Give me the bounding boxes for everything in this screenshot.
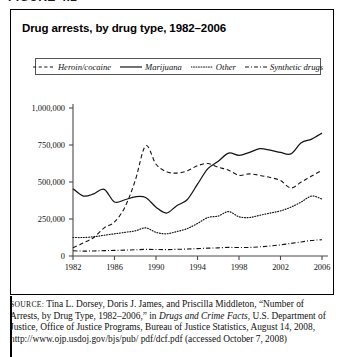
- y-tick-label: 1,000,000: [32, 104, 66, 113]
- series-line-marijuana: [73, 133, 322, 213]
- x-tick-label: 1990: [148, 263, 165, 272]
- chart-svg: 0250,000500,000750,0001,000,000 19821986…: [11, 10, 335, 296]
- x-tick-label: 1982: [65, 263, 82, 272]
- figure-container: Drug arrests, by drug type, 1982–2006 He…: [10, 9, 334, 295]
- x-tick-label: 1986: [106, 263, 123, 272]
- x-tick-label: 1998: [231, 263, 248, 272]
- x-axis-ticks: 1982198619901994199820022006: [65, 256, 331, 272]
- y-tick-label: 250,000: [38, 215, 65, 224]
- x-tick-label: 2006: [314, 263, 331, 272]
- y-tick-label: 500,000: [38, 178, 65, 187]
- y-tick-label: 0: [61, 252, 65, 261]
- source-line-2-italic: Drugs and Crime: [159, 311, 225, 321]
- x-tick-label: 1994: [189, 263, 207, 272]
- source-note: SOURCE: Tina L. Dorsey, Doris J. James, …: [10, 299, 332, 346]
- source-line-5: pdf/dcf.pdf (accessed October 7, 2008): [141, 334, 287, 344]
- y-tick-label: 750,000: [38, 141, 65, 150]
- source-line-3-italic: Facts: [227, 311, 248, 321]
- source-line-1: Tina L. Dorsey, Doris J. James, and Pris…: [44, 299, 256, 309]
- x-tick-label: 2002: [272, 263, 289, 272]
- figure-label-strip: FIGURE 4.2: [0, 0, 343, 7]
- chart-plot-area: 0250,000500,000750,0001,000,000 19821986…: [11, 10, 335, 296]
- series-line-other: [73, 196, 322, 238]
- source-prefix: SOURCE:: [10, 300, 44, 309]
- series-line-synthetic-drugs: [73, 240, 322, 251]
- figure-label: FIGURE 4.2: [8, 0, 77, 4]
- y-axis-ticks: 0250,000500,000750,0001,000,000: [32, 104, 74, 261]
- chart-series-group: [73, 133, 322, 251]
